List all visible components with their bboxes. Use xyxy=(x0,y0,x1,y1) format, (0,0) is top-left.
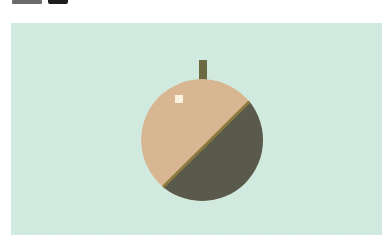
apple-illustration xyxy=(0,0,391,241)
fruit-highlight xyxy=(175,95,183,103)
